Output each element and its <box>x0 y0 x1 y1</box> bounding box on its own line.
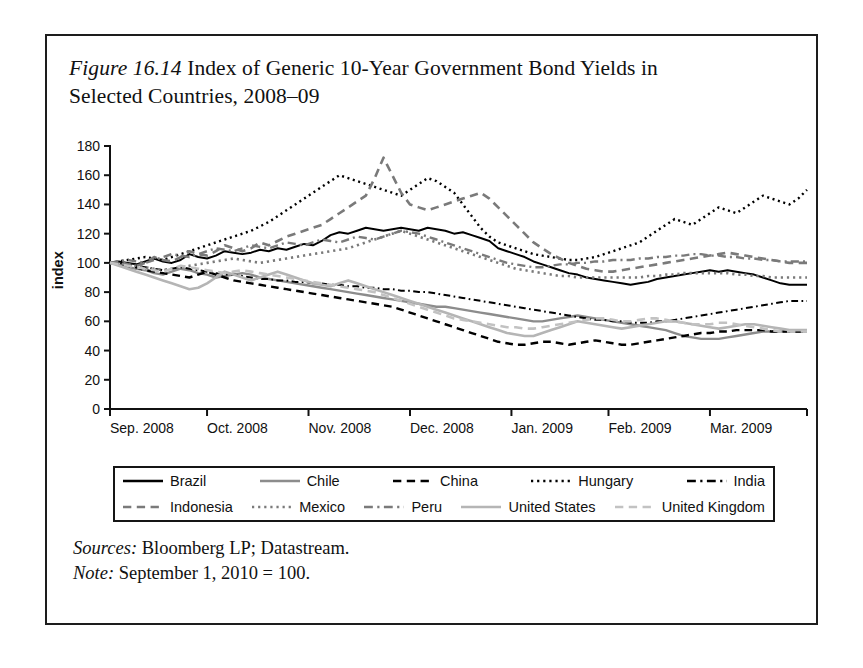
legend-item[interactable]: United Kingdom <box>613 500 765 515</box>
legend-label: Mexico <box>299 500 345 515</box>
svg-text:40: 40 <box>84 343 100 359</box>
legend-label: Chile <box>307 474 340 489</box>
sources-text: Bloomberg LP; Datastream. <box>137 538 349 558</box>
legend-line-sample <box>529 475 573 487</box>
legend-row: IndonesiaMexicoPeruUnited StatesUnited K… <box>115 494 773 520</box>
legend-label: Brazil <box>170 474 206 489</box>
legend-line-sample <box>121 475 165 487</box>
legend-line-sample <box>362 501 406 513</box>
chart-plot-area: 020406080100120140160180 Sep. 2008Oct. 2… <box>47 134 816 464</box>
svg-text:20: 20 <box>84 372 100 388</box>
series-group <box>110 158 807 345</box>
sources-line: Sources: Bloomberg LP; Datastream. <box>73 536 349 561</box>
legend-label: Hungary <box>578 474 633 489</box>
svg-text:160: 160 <box>77 167 101 183</box>
svg-text:120: 120 <box>77 226 101 242</box>
svg-text:Sep. 2008: Sep. 2008 <box>110 420 174 436</box>
figure-number: Figure 16.14 <box>69 56 182 80</box>
series-line-hungary <box>110 175 807 263</box>
legend-line-sample <box>391 475 435 487</box>
legend-item[interactable]: United States <box>459 500 595 515</box>
figure-title: Figure 16.14 Index of Generic 10-Year Go… <box>69 54 689 110</box>
legend-item[interactable]: Peru <box>362 500 442 515</box>
svg-text:60: 60 <box>84 313 100 329</box>
legend-item[interactable]: India <box>685 474 765 489</box>
legend-line-sample <box>258 475 302 487</box>
svg-text:Jan. 2009: Jan. 2009 <box>511 420 573 436</box>
y-axis: 020406080100120140160180 <box>77 138 110 417</box>
note-text: September 1, 2010 = 100. <box>114 563 310 583</box>
svg-text:100: 100 <box>77 255 101 271</box>
legend-label: Indonesia <box>170 500 233 515</box>
source-note-block: Sources: Bloomberg LP; Datastream. Note:… <box>73 536 349 586</box>
legend-item[interactable]: Brazil <box>121 474 206 489</box>
legend-item[interactable]: Mexico <box>250 500 345 515</box>
legend-item[interactable]: Chile <box>258 474 340 489</box>
legend-item[interactable]: China <box>391 474 478 489</box>
legend-line-sample <box>685 475 729 487</box>
legend-label: India <box>734 474 765 489</box>
legend-line-sample <box>613 501 657 513</box>
legend-line-sample <box>459 501 503 513</box>
figure-frame: Figure 16.14 Index of Generic 10-Year Go… <box>45 34 818 625</box>
sources-label: Sources: <box>73 538 137 558</box>
legend-line-sample <box>121 501 165 513</box>
svg-text:Nov. 2008: Nov. 2008 <box>309 420 372 436</box>
legend-item[interactable]: Indonesia <box>121 500 233 515</box>
legend-label: Peru <box>411 500 442 515</box>
legend-label: United Kingdom <box>662 500 765 515</box>
svg-text:180: 180 <box>77 138 101 154</box>
svg-text:0: 0 <box>92 401 100 417</box>
svg-text:Feb. 2009: Feb. 2009 <box>608 420 671 436</box>
legend-row: BrazilChileChinaHungaryIndia <box>115 468 773 494</box>
x-axis: Sep. 2008Oct. 2008Nov. 2008Dec. 2008Jan.… <box>110 409 807 436</box>
line-chart: 020406080100120140160180 Sep. 2008Oct. 2… <box>47 134 816 464</box>
note-line: Note: September 1, 2010 = 100. <box>73 561 349 586</box>
svg-text:Oct. 2008: Oct. 2008 <box>207 420 268 436</box>
chart-legend: BrazilChileChinaHungaryIndia IndonesiaMe… <box>113 466 775 522</box>
svg-text:140: 140 <box>77 196 101 212</box>
legend-label: United States <box>508 500 595 515</box>
legend-item[interactable]: Hungary <box>529 474 633 489</box>
series-line-china <box>110 263 807 345</box>
y-axis-title: index <box>50 251 66 289</box>
legend-line-sample <box>250 501 294 513</box>
svg-text:Mar. 2009: Mar. 2009 <box>710 420 772 436</box>
note-label: Note: <box>73 563 114 583</box>
svg-text:80: 80 <box>84 284 100 300</box>
svg-text:Dec. 2008: Dec. 2008 <box>410 420 474 436</box>
legend-label: China <box>440 474 478 489</box>
